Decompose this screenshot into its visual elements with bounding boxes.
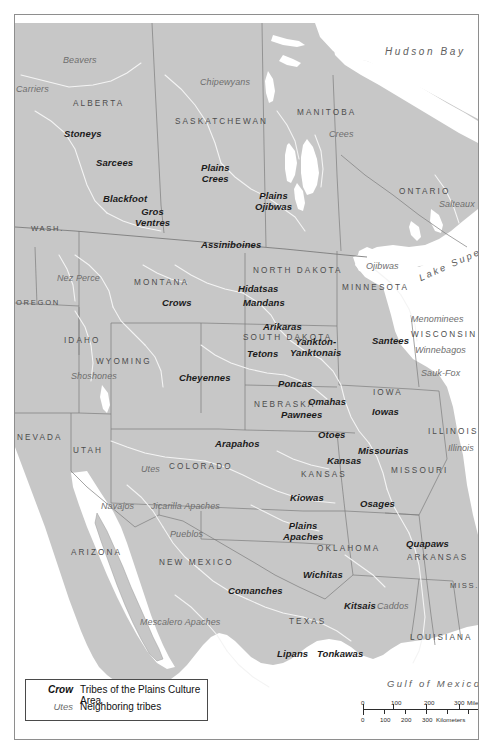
place-label-new-mexico: NEW MEXICO (159, 558, 234, 567)
legend-text-neighboring: Neighboring tribes (80, 701, 161, 712)
tribe-label-santees: Santees (372, 335, 409, 346)
tribe-label-omahas: Omahas (308, 396, 346, 407)
scale-km-tick-100: 100 (380, 716, 390, 723)
tribe-label-arikaras: Arikaras (263, 321, 302, 332)
tribe-label-cheyennes: Cheyennes (179, 372, 231, 383)
neighbor-label-crees: Crees (329, 129, 354, 139)
place-label-manitoba: MANITOBA (297, 108, 356, 117)
neighbor-label-sauk-fox: Sauk-Fox (421, 368, 460, 378)
scale-miles-unit: Miles (467, 699, 479, 706)
place-label-iowa: IOWA (373, 388, 403, 397)
scale-tick-down-5 (468, 709, 469, 714)
place-label-ontario: ONTARIO (399, 187, 450, 196)
place-label-alberta: ALBERTA (73, 99, 124, 108)
place-label-montana: MONTANA (134, 278, 189, 287)
scale-km-tick-200: 200 (401, 716, 411, 723)
neighbor-label-salteaux: Salteaux (439, 199, 475, 209)
tribe-label-quapaws: Quapaws (406, 538, 449, 549)
place-label-idaho: IDAHO (64, 336, 100, 345)
neighbor-label-mescalero-apaches: Mescalero Apaches (140, 617, 220, 627)
place-label-wyoming: WYOMING (96, 357, 152, 366)
neighbor-label-winnebagos: Winnebagos (415, 345, 466, 355)
place-label-mississippi: MISS. (450, 581, 479, 590)
neighbor-label-ojibwas: Ojibwas (366, 261, 399, 271)
neighbor-label-nez-perce: Nez Perce (57, 273, 100, 283)
scale-axis-line (363, 709, 478, 710)
scale-tick-up-1 (393, 704, 394, 710)
tribe-label-iowas: Iowas (372, 406, 399, 417)
tribe-label-osages: Osages (360, 498, 395, 509)
place-label-kansas: KANSAS (301, 470, 347, 479)
neighbor-label-illinois: Illinois (448, 443, 474, 453)
tribe-label-wichitas: Wichitas (303, 569, 343, 580)
place-label-louisiana: LOUISIANA (410, 633, 473, 642)
place-label-missouri: MISSOURI (391, 466, 448, 475)
tribe-label-plains-crees: PlainsCrees (201, 163, 230, 184)
neighbor-label-shoshones: Shoshones (71, 371, 117, 381)
tribe-label-otoes: Otoes (318, 429, 345, 440)
legend-row-plains: Crow Tribes of the Plains Culture Area (31, 684, 202, 701)
tribe-label-arapahos: Arapahos (215, 438, 260, 449)
tribe-label-poncas: Poncas (278, 378, 312, 389)
map-root: Hudson Bay Lake Superior Gulf of Mexico … (0, 0, 493, 756)
tribe-label-sarcees: Sarcees (96, 157, 133, 168)
place-label-oregon: OREGON (16, 298, 60, 307)
tribe-label-kiowas: Kiowas (290, 492, 324, 503)
scale-km-unit: Kilometers (436, 716, 465, 723)
tribe-label-mandans: Mandans (243, 297, 285, 308)
scale-tick-up-3 (459, 704, 460, 710)
scale-tick-down-0 (363, 709, 364, 715)
neighbor-label-menominees: Menominees (411, 314, 464, 324)
tribe-label-kitsais: Kitsais (344, 600, 376, 611)
map-frame: Hudson Bay Lake Superior Gulf of Mexico … (14, 14, 479, 740)
tribe-label-pawnees: Pawnees (281, 409, 322, 420)
tribe-label-gros-ventres: GrosVentres (135, 207, 170, 228)
tribe-label-tetons: Tetons (247, 348, 278, 359)
tribe-label-assiniboines: Assiniboines (201, 239, 261, 250)
place-label-utah: UTAH (73, 446, 103, 455)
map-legend: Crow Tribes of the Plains Culture Area U… (25, 679, 208, 721)
tribe-label-lipans: Lipans (277, 648, 308, 659)
tribe-label-comanches: Comanches (228, 585, 283, 596)
place-label-nevada: NEVADA (17, 433, 63, 442)
neighbor-label-beavers: Beavers (63, 55, 97, 65)
water-label-hudson-bay: Hudson Bay (385, 46, 465, 57)
place-label-wisconsin: WISCONSIN (411, 330, 477, 339)
scale-km-tick-0: 0 (361, 716, 364, 723)
place-label-oklahoma: OKLAHOMA (317, 544, 380, 553)
place-label-minnesota: MINNESOTA (342, 283, 409, 292)
scale-km-tick-300: 300 (422, 716, 432, 723)
neighbor-label-jicarilla-apaches: Jicarilla Apaches (151, 501, 220, 511)
tribe-label-crows: Crows (162, 297, 192, 308)
place-label-nebraska: NEBRASKA (254, 400, 315, 409)
scale-tick-down-4 (447, 709, 448, 714)
water-label-gulf-of-mexico: Gulf of Mexico (387, 678, 479, 689)
scale-tick-down-3 (426, 709, 427, 714)
neighbor-label-pueblos: Pueblos (170, 529, 203, 539)
tribe-label-yankton-yanktonais: Yankton-Yanktonais (290, 337, 341, 358)
neighbor-label-navajos: Navajos (101, 501, 134, 511)
tribe-label-hidatsas: Hidatsas (238, 283, 278, 294)
tribe-label-missourias: Missourias (358, 445, 409, 456)
place-label-washington: WASH. (31, 224, 64, 233)
map-scale-bar: 0 100 200 300 Miles 0 100 200 300 Kilome… (361, 699, 471, 735)
neighbor-label-caddos: Caddos (377, 601, 409, 611)
place-label-arkansas: ARKANSAS (407, 553, 468, 562)
place-label-illinois: ILLINOIS (428, 427, 478, 436)
place-label-texas: TEXAS (289, 617, 326, 626)
tribe-label-plains-apaches: PlainsApaches (283, 521, 323, 542)
tribe-label-tonkawas: Tonkawas (317, 648, 363, 659)
neighbor-label-utes: Utes (141, 464, 160, 474)
place-label-arizona: ARIZONA (71, 548, 122, 557)
scale-tick-down-1 (384, 709, 385, 714)
tribe-label-stoneys: Stoneys (64, 128, 102, 139)
neighbor-label-carriers: Carriers (16, 84, 49, 94)
tribe-label-plains-ojibwas: PlainsOjibwas (255, 191, 292, 212)
scale-tick-down-2 (405, 709, 406, 714)
legend-key-crow: Crow (31, 684, 80, 695)
place-label-north-dakota: NORTH DAKOTA (253, 266, 343, 275)
tribe-label-blackfoot: Blackfoot (103, 193, 147, 204)
place-label-saskatchewan: SASKATCHEWAN (175, 117, 268, 126)
legend-key-utes: Utes (31, 701, 80, 712)
neighbor-label-chipewyans: Chipewyans (200, 77, 250, 87)
